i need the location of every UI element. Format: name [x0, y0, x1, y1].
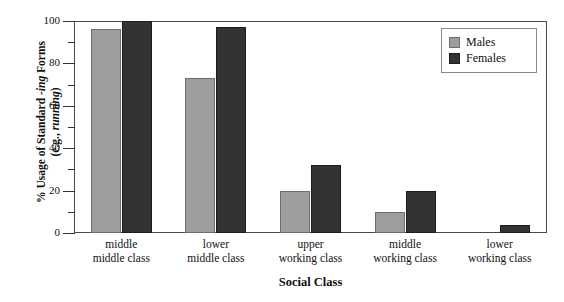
y-minor-tick-30 — [68, 169, 75, 170]
bar-females-0 — [122, 21, 152, 233]
legend-swatch-males-icon — [449, 37, 460, 48]
bar-males-2 — [280, 191, 310, 233]
y-tick-label-40: 40 — [2, 142, 60, 153]
y-axis-title-line2: (e.g., running) — [48, 6, 62, 238]
bar-males-0 — [91, 29, 121, 233]
y-minor-tick-90 — [68, 42, 75, 43]
x-axis-title: Social Class — [74, 275, 547, 290]
y-tick-label-80: 80 — [2, 57, 60, 68]
x-tick-label-2: upperworking class — [263, 238, 358, 265]
y-tick-80 — [63, 63, 75, 64]
x-tick-label-0: middlemiddle class — [74, 238, 169, 265]
y-tick-0 — [63, 233, 75, 234]
legend-item-males: Males — [449, 34, 530, 50]
y-axis-title: % Usage of Standard -ing Forms (e.g., ru… — [0, 0, 40, 245]
legend: Males Females — [441, 28, 537, 73]
y-minor-tick-70 — [68, 85, 75, 86]
y-tick-label-100: 100 — [2, 15, 60, 26]
y-tick-label-20: 20 — [2, 185, 60, 196]
bar-males-1 — [185, 78, 215, 233]
bar-males-3 — [375, 212, 405, 233]
y-minor-tick-50 — [68, 127, 75, 128]
bar-chart-figure: % Usage of Standard -ing Forms (e.g., ru… — [0, 0, 564, 302]
bar-females-3 — [406, 191, 436, 233]
y-tick-60 — [63, 106, 75, 107]
bar-females-1 — [216, 27, 246, 233]
y-tick-label-60: 60 — [2, 100, 60, 111]
x-tick-label-4: lowerworking class — [452, 238, 547, 265]
legend-swatch-females-icon — [449, 53, 460, 64]
y-tick-label-0: 0 — [2, 227, 60, 238]
legend-label-males: Males — [466, 36, 495, 49]
y-tick-40 — [63, 148, 75, 149]
y-tick-100 — [63, 21, 75, 22]
y-tick-20 — [63, 191, 75, 192]
legend-item-females: Females — [449, 50, 530, 66]
bar-females-2 — [311, 165, 341, 233]
x-tick-label-3: middleworking class — [358, 238, 453, 265]
bar-females-4 — [500, 225, 530, 233]
y-minor-tick-10 — [68, 212, 75, 213]
legend-label-females: Females — [466, 52, 506, 65]
x-tick-label-1: lowermiddle class — [169, 238, 264, 265]
